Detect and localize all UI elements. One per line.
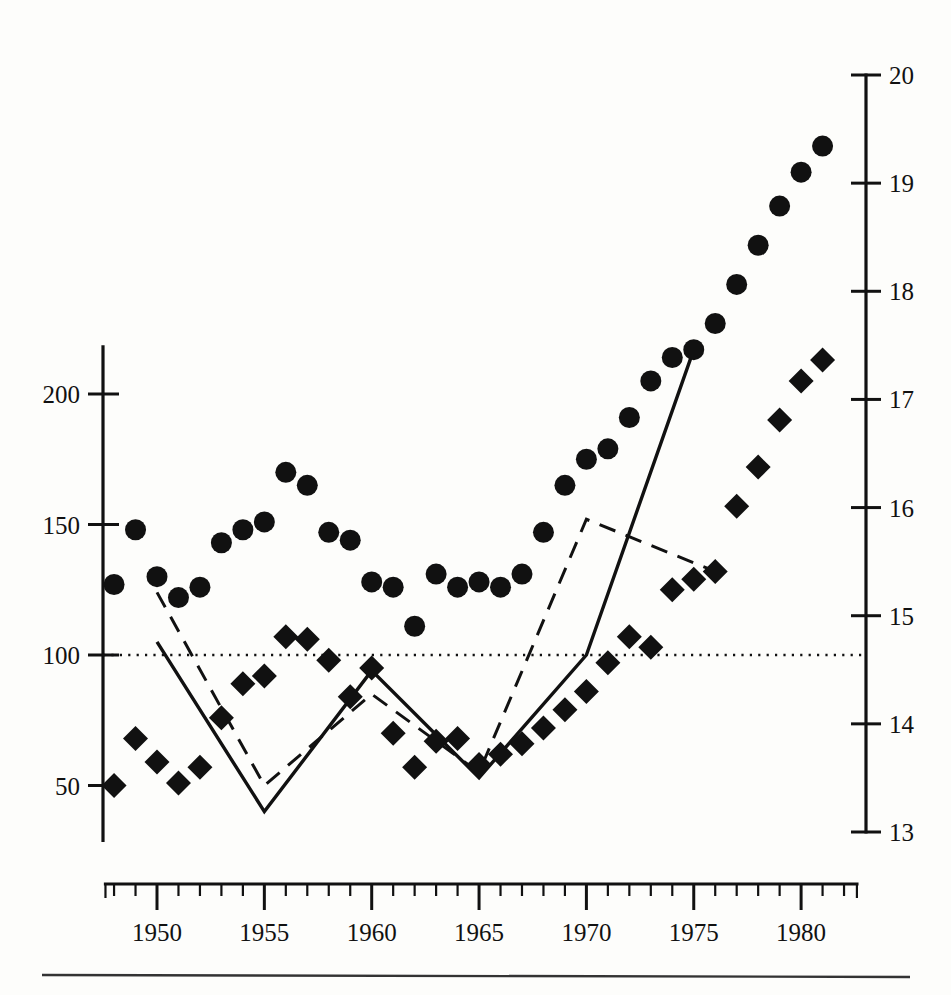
figure-container: 50100150200 1314151617181920 19501955196… — [0, 0, 951, 995]
circle-data-point — [104, 574, 125, 595]
circle-data-point — [426, 564, 447, 585]
diamond-data-point — [531, 716, 556, 741]
diamond-data-point — [359, 656, 384, 681]
y-right-tick-label: 17 — [889, 386, 914, 413]
y-axis-right: 1314151617181920 — [851, 62, 915, 846]
y-right-tick-label: 15 — [889, 603, 914, 630]
diamond-data-point — [424, 729, 449, 754]
circle-data-point — [147, 566, 168, 587]
circle-data-point — [254, 511, 275, 532]
circle-data-point — [318, 522, 339, 543]
footer-rule — [42, 975, 910, 977]
circle-data-point — [597, 438, 618, 459]
circle-data-point — [812, 136, 833, 157]
diamond-data-point — [789, 368, 814, 393]
page-footer-rule — [42, 975, 910, 977]
circle-data-point — [383, 577, 404, 598]
circle-data-point — [490, 577, 511, 598]
diamond-data-point — [230, 671, 255, 696]
y-left-tick-label: 200 — [43, 381, 81, 408]
diamond-data-point — [810, 348, 835, 373]
circle-data-point — [275, 462, 296, 483]
diamond-data-point — [703, 559, 728, 584]
circle-data-point — [726, 274, 747, 295]
y-left-tick-label: 150 — [43, 512, 81, 539]
diamond-data-point — [273, 624, 298, 649]
circle-data-point — [619, 407, 640, 428]
x-axis-tick-label: 1960 — [347, 919, 397, 946]
y-axis-left: 50100150200 — [43, 347, 120, 841]
circle-data-point — [533, 522, 554, 543]
diamond-data-point — [402, 755, 427, 780]
diamond-data-point — [467, 752, 492, 777]
circle-data-point — [211, 532, 232, 553]
diamond-data-point — [381, 721, 406, 746]
circle-data-point — [340, 530, 361, 551]
circle-data-point — [469, 571, 490, 592]
diamond-data-point — [552, 697, 577, 722]
diamond-data-point — [295, 627, 320, 652]
circle-data-point — [705, 313, 726, 334]
diamond-data-point — [252, 663, 277, 688]
diamond-data-point — [767, 408, 792, 433]
circle-series-markers — [104, 136, 834, 637]
circle-data-point — [297, 475, 318, 496]
diamond-data-point — [617, 624, 642, 649]
diamond-data-point — [145, 750, 170, 775]
diamond-data-point — [102, 773, 127, 798]
circle-data-point — [125, 519, 146, 540]
y-right-tick-label: 18 — [889, 278, 914, 305]
diamond-data-point — [316, 648, 341, 673]
x-axis-tick-label: 1950 — [132, 919, 182, 946]
y-right-tick-label: 13 — [889, 819, 914, 846]
y-right-tick-label: 14 — [889, 711, 915, 738]
x-axis: 1950195519601965197019751980 — [105, 884, 856, 946]
circle-data-point — [232, 519, 253, 540]
diamond-data-point — [187, 755, 212, 780]
diamond-data-point — [746, 455, 771, 480]
circle-data-point — [662, 347, 683, 368]
circle-data-point — [554, 475, 575, 496]
diamond-data-point — [574, 679, 599, 704]
circle-data-point — [189, 577, 210, 598]
diamond-data-point — [509, 731, 534, 756]
y-right-tick-label: 16 — [889, 495, 914, 522]
y-right-tick-label: 20 — [889, 62, 914, 89]
diamond-data-point — [681, 567, 706, 592]
circle-data-point — [576, 449, 597, 470]
x-axis-tick-label: 1980 — [776, 919, 826, 946]
circle-data-point — [791, 162, 812, 183]
chart-canvas: 50100150200 1314151617181920 19501955196… — [0, 0, 951, 995]
diamond-data-point — [660, 577, 685, 602]
x-axis-tick-label: 1970 — [561, 919, 611, 946]
circle-data-point — [361, 571, 382, 592]
diamond-data-point — [724, 494, 749, 519]
circle-data-point — [447, 577, 468, 598]
y-left-tick-label: 100 — [43, 642, 81, 669]
y-left-tick-label: 50 — [55, 773, 80, 800]
diamond-data-point — [123, 726, 148, 751]
circle-data-point — [511, 564, 532, 585]
x-axis-tick-label: 1965 — [454, 919, 504, 946]
y-right-tick-label: 19 — [889, 170, 914, 197]
x-axis-tick-label: 1975 — [669, 919, 719, 946]
circle-data-point — [748, 235, 769, 256]
circle-data-point — [640, 370, 661, 391]
x-axis-tick-label: 1955 — [239, 919, 289, 946]
circle-data-point — [168, 587, 189, 608]
diamond-data-point — [166, 770, 191, 795]
circle-data-point — [769, 196, 790, 217]
circle-data-point — [683, 339, 704, 360]
circle-data-point — [404, 616, 425, 637]
